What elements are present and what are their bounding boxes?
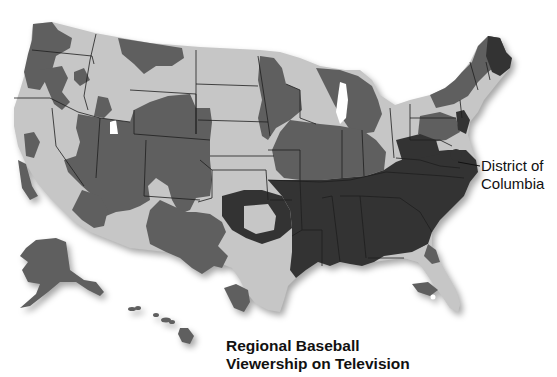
dc-annotation: District of Columbia [481, 157, 544, 193]
region-dc-dark [450, 149, 462, 161]
caption-line2: Viewership on Television [226, 355, 410, 373]
us-viewership-map [0, 0, 557, 377]
dc-annotation-line2: Columbia [481, 175, 544, 193]
map-caption: Regional Baseball Viewership on Televisi… [226, 337, 410, 373]
map-shapes [14, 22, 512, 344]
hawaii-inset [128, 306, 194, 344]
alaska-inset [20, 238, 104, 308]
caption-line1: Regional Baseball [226, 337, 410, 355]
dc-annotation-line1: District of [481, 157, 544, 175]
region-florida-white [431, 295, 436, 300]
